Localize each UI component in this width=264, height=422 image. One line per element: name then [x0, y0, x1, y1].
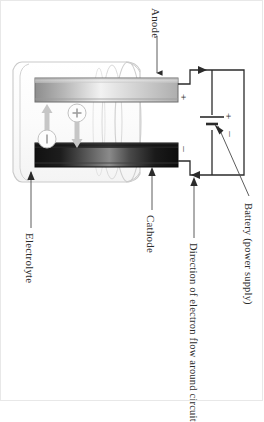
circuit-flow-arrows	[191, 66, 207, 179]
battery-negative-sign: –	[225, 131, 237, 137]
anode-label: Anode	[150, 8, 162, 38]
electrolyte-label: Electrolyte	[24, 233, 36, 283]
external-circuit	[178, 70, 244, 175]
battery-label: Battery (power supply)	[243, 203, 254, 305]
arrow-bottom-left	[191, 171, 200, 179]
cathode-polarity-sign: –	[179, 146, 191, 152]
battery-symbol	[200, 117, 224, 124]
anode-polarity-sign: +	[178, 94, 190, 100]
battery-positive-sign: +	[223, 113, 235, 119]
cathode-label: Cathode	[145, 215, 157, 253]
anode-electrode	[35, 78, 178, 102]
arrow-top-right	[198, 66, 207, 74]
electron-flow-label: Direction of electron flow around circui…	[188, 243, 199, 422]
cathode-electrode	[35, 143, 178, 167]
